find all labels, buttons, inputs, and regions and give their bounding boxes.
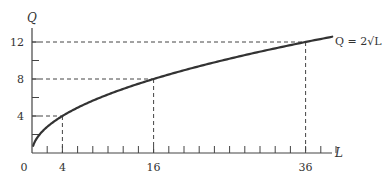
x-tick-label: 4 (59, 161, 66, 174)
x-tick-label: 16 (147, 161, 161, 174)
x-tick-label: 0 (21, 161, 28, 174)
y-tick-label: 12 (10, 36, 24, 49)
curve-equation-label: Q = 2√L (335, 35, 382, 48)
production-curve (33, 37, 332, 146)
y-tick-label: 4 (17, 110, 24, 123)
axis-ticks (32, 42, 336, 153)
x-axis-title: L (334, 146, 343, 160)
production-function-chart: Q L Q = 2√L 0416364812 (0, 0, 385, 178)
y-tick-label: 8 (17, 73, 24, 86)
dashed-guide-lines (32, 42, 306, 153)
y-axis-title: Q (27, 11, 37, 25)
x-tick-label: 36 (299, 161, 313, 174)
